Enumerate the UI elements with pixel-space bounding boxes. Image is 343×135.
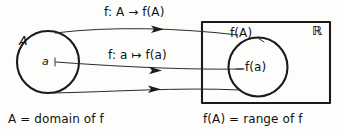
domain-caption: A = domain of f [8,113,104,125]
domain-set-label: A [19,35,28,48]
element-map-label: f: a ↦ f(a) [108,49,167,61]
real-numbers-label: ℝ [312,25,322,38]
range-element-label: f(a) [245,61,266,73]
range-caption: f(A) = range of f [203,113,303,125]
set-map-label: f: A → f(A) [104,6,164,18]
range-set-label: f(A) [230,27,252,39]
boundary-map-arrow [52,89,240,93]
set-map-arrow [55,29,238,35]
function-mapping-diagram: A a f: A → f(A) f: a ↦ f(a) f(A) f(a) ℝ … [0,0,343,135]
domain-element-label: a [42,56,49,67]
boundary-map-arrowhead [148,86,161,94]
element-map-arrow [56,62,243,69]
